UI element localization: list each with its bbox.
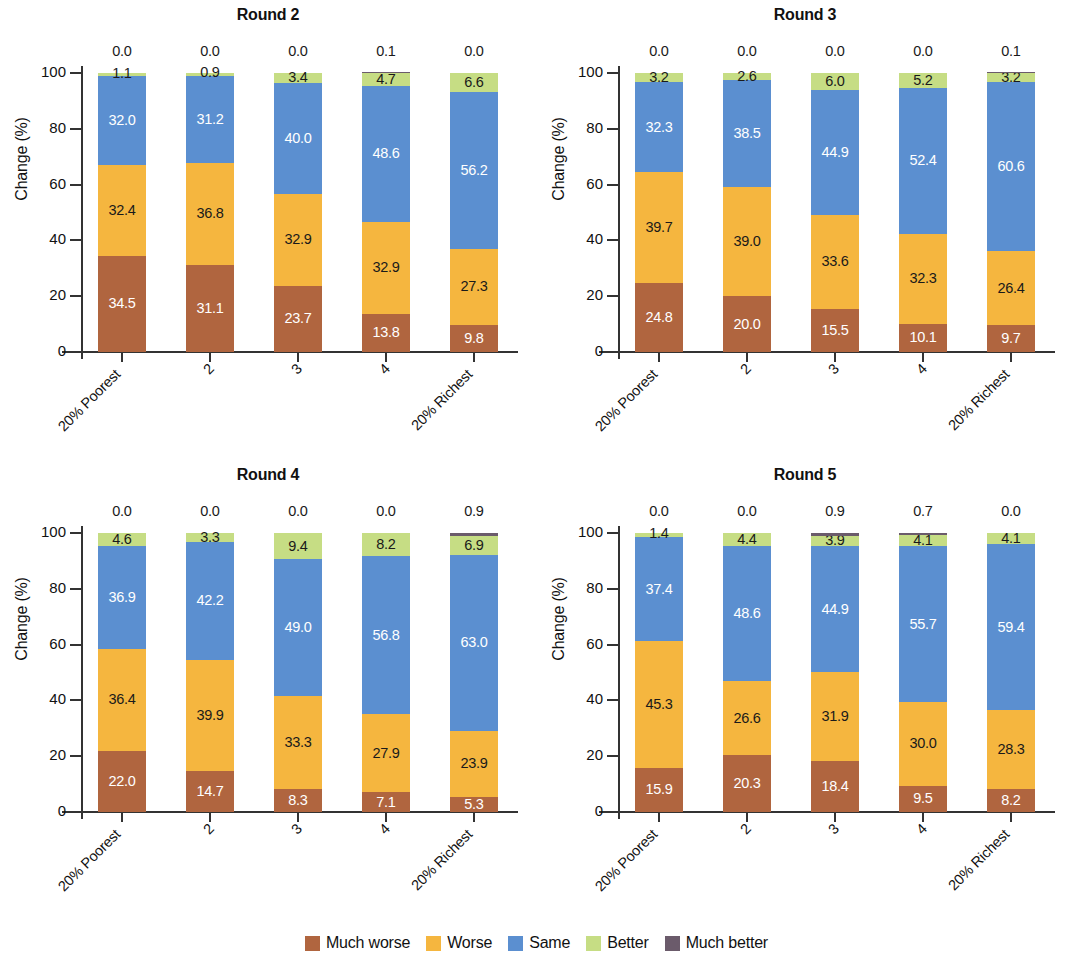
- y-axis-label: Change (%): [550, 59, 568, 259]
- bar-value-label-better: 1.1: [98, 66, 146, 81]
- bar-value-label-much-worse: 9.5: [899, 791, 947, 806]
- y-axis-tick-label: 40: [563, 230, 603, 247]
- bar-value-label-worse: 23.9: [450, 756, 498, 771]
- bar-value-label-much-worse: 8.2: [987, 793, 1035, 808]
- bar-value-label-much-worse: 20.0: [723, 317, 771, 332]
- bar-value-label-much-better: 0.1: [987, 43, 1035, 59]
- panel-round-2: Round 2Change (%)02040608010020% Poorest…: [0, 0, 536, 460]
- x-axis-tick: [746, 353, 748, 362]
- bar-value-label-better: 4.4: [723, 532, 771, 547]
- bar-value-label-better: 1.4: [635, 526, 683, 541]
- x-axis-tick-label: 4: [376, 360, 393, 377]
- bar-value-label-worse: 33.6: [811, 254, 859, 269]
- y-axis-tick: [70, 295, 82, 297]
- x-axis-tick-label: 4: [913, 820, 930, 837]
- legend-item-worse[interactable]: Worse: [426, 934, 492, 952]
- bar-value-label-worse: 36.4: [98, 692, 146, 707]
- bar-value-label-much-worse: 23.7: [274, 311, 322, 326]
- y-axis-tick-label: 80: [563, 579, 603, 596]
- y-axis-tick-label: 100: [26, 63, 66, 80]
- legend-swatch-icon: [665, 936, 680, 951]
- x-axis-tick: [473, 813, 475, 822]
- y-axis-tick-label: 80: [26, 579, 66, 596]
- y-axis-tick: [607, 588, 619, 590]
- x-axis-tick: [658, 353, 660, 362]
- x-axis-tick: [385, 353, 387, 362]
- bar-value-label-much-worse: 18.4: [811, 779, 859, 794]
- bar-value-label-better: 5.2: [899, 73, 947, 88]
- y-axis-tick-label: 20: [563, 746, 603, 763]
- bar-value-label-worse: 26.4: [987, 281, 1035, 296]
- plot-area: 24.839.732.33.20.020.039.038.52.60.015.5…: [619, 73, 1051, 352]
- legend-label: Worse: [447, 934, 492, 952]
- bar-value-label-same: 42.2: [186, 593, 234, 608]
- panel-title: Round 3: [537, 6, 1073, 24]
- bar-value-label-worse: 31.9: [811, 709, 859, 724]
- x-axis-tick: [473, 353, 475, 362]
- bar-value-label-much-worse: 14.7: [186, 784, 234, 799]
- legend-swatch-icon: [305, 936, 320, 951]
- y-axis-label: Change (%): [13, 519, 31, 719]
- legend-item-better[interactable]: Better: [586, 934, 649, 952]
- bar-value-label-much-worse: 31.1: [186, 301, 234, 316]
- y-axis-tick-label: 20: [26, 746, 66, 763]
- y-axis-tick: [70, 532, 82, 534]
- plot-area: 34.532.432.01.10.031.136.831.20.90.023.7…: [82, 73, 514, 352]
- bar-value-label-much-better: 0.0: [811, 43, 859, 59]
- panel-title: Round 5: [537, 466, 1073, 484]
- bar-segment-much-better: [987, 72, 1035, 74]
- bar-value-label-worse: 26.6: [723, 711, 771, 726]
- bar-segment-much-better: [899, 533, 947, 535]
- bar-value-label-better: 4.7: [362, 72, 410, 87]
- bar-segment-much-better: [362, 72, 410, 74]
- y-axis-tick-label: 80: [26, 119, 66, 136]
- legend-swatch-icon: [426, 936, 441, 951]
- x-axis-tick: [121, 813, 123, 822]
- bar-value-label-better: 9.4: [274, 539, 322, 554]
- bar-value-label-much-better: 0.0: [362, 503, 410, 519]
- bar-value-label-worse: 27.3: [450, 279, 498, 294]
- bar-value-label-better: 4.6: [98, 532, 146, 547]
- y-axis-tick: [607, 239, 619, 241]
- bar-value-label-better: 6.9: [450, 538, 498, 553]
- plot-area: 15.945.337.41.40.020.326.648.64.40.018.4…: [619, 533, 1051, 812]
- bar-value-label-same: 48.6: [723, 606, 771, 621]
- y-axis-tick-label: 100: [26, 523, 66, 540]
- bar-value-label-worse: 36.8: [186, 206, 234, 221]
- bar-value-label-much-better: 0.0: [274, 43, 322, 59]
- x-axis-tick: [209, 353, 211, 362]
- y-axis-tick: [70, 351, 82, 353]
- x-axis-tick-label: 2: [200, 820, 217, 837]
- bar-value-label-much-worse: 15.5: [811, 323, 859, 338]
- x-axis-tick-label: 20% Richest: [945, 366, 1012, 433]
- bar-value-label-worse: 32.3: [899, 271, 947, 286]
- y-axis-tick-label: 60: [563, 175, 603, 192]
- bar-value-label-much-worse: 10.1: [899, 330, 947, 345]
- bar-value-label-same: 37.4: [635, 582, 683, 597]
- plot-area: 22.036.436.94.60.014.739.942.23.30.08.33…: [82, 533, 514, 812]
- legend-item-much-worse[interactable]: Much worse: [305, 934, 410, 952]
- bar-value-label-same: 31.2: [186, 112, 234, 127]
- legend-item-same[interactable]: Same: [508, 934, 570, 952]
- y-axis-tick: [607, 811, 619, 813]
- y-axis-tick: [70, 811, 82, 813]
- y-axis-tick-label: 60: [26, 175, 66, 192]
- bar-value-label-better: 4.1: [987, 531, 1035, 546]
- x-axis-tick-label: 20% Richest: [408, 826, 475, 893]
- x-axis-tick-label: 3: [288, 360, 305, 377]
- x-axis-tick-label: 2: [737, 820, 754, 837]
- bar-value-label-better: 3.3: [186, 530, 234, 545]
- bar-value-label-much-worse: 8.3: [274, 793, 322, 808]
- bar-value-label-better: 0.9: [186, 65, 234, 80]
- legend-label: Much better: [686, 934, 768, 952]
- bar-value-label-much-worse: 9.7: [987, 331, 1035, 346]
- panel-round-3: Round 3Change (%)02040608010020% Poorest…: [537, 0, 1073, 460]
- legend-item-much-better[interactable]: Much better: [665, 934, 768, 952]
- bar-value-label-worse: 32.9: [274, 232, 322, 247]
- bar-value-label-worse: 39.9: [186, 708, 234, 723]
- y-axis-tick-label: 60: [563, 635, 603, 652]
- y-axis-tick: [607, 351, 619, 353]
- x-axis-tick: [297, 813, 299, 822]
- panel-round-4: Round 4Change (%)02040608010020% Poorest…: [0, 460, 536, 920]
- y-axis-tick: [70, 128, 82, 130]
